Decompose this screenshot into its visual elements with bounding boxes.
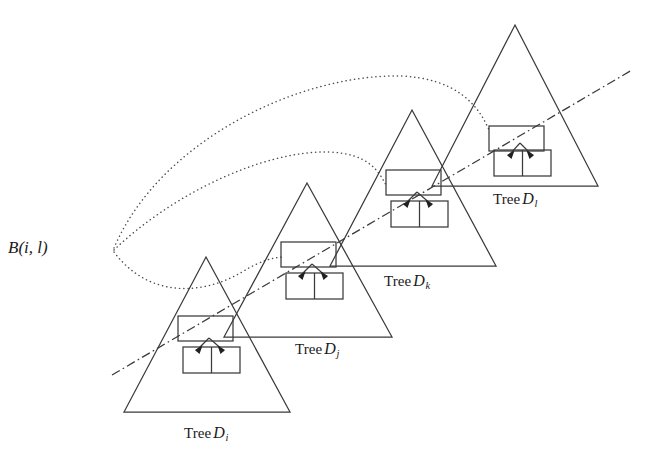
tree-label-l-symbol: D bbox=[520, 190, 534, 207]
tree-label-k: TreeDk bbox=[384, 272, 430, 291]
upper-box-tree-k bbox=[386, 170, 441, 195]
tree-label-j: TreeDj bbox=[295, 340, 340, 359]
node-structure-tree-l bbox=[489, 126, 551, 176]
tree-label-j-word: Tree bbox=[295, 341, 322, 357]
b-node-label-text: B(i, l) bbox=[8, 238, 48, 257]
upper-box-tree-j bbox=[281, 242, 336, 267]
dotted-arc-group bbox=[114, 76, 489, 289]
tree-label-j-symbol: D bbox=[322, 340, 336, 357]
tree-label-i-subscript: i bbox=[225, 432, 229, 443]
b-node-label: B(i, l) bbox=[8, 238, 48, 258]
triangle-tree-i bbox=[124, 257, 290, 412]
tree-label-i-word: Tree bbox=[184, 425, 211, 441]
dotted-arc-to-tree-k bbox=[114, 152, 386, 250]
dash-dot-axis-line bbox=[112, 70, 632, 375]
tree-label-k-word: Tree bbox=[384, 273, 411, 289]
node-structure-tree-j bbox=[281, 242, 343, 299]
tree-label-k-subscript: k bbox=[425, 280, 430, 291]
dotted-arc-to-tree-l bbox=[114, 76, 489, 248]
tree-label-i: TreeDi bbox=[184, 424, 229, 443]
tree-sequence-diagram bbox=[0, 0, 655, 469]
tree-label-i-symbol: D bbox=[211, 424, 225, 441]
tree-label-k-symbol: D bbox=[411, 272, 425, 289]
tree-label-l: TreeDl bbox=[493, 190, 538, 209]
triangle-tree-k bbox=[330, 110, 496, 266]
tree-label-j-subscript: j bbox=[336, 348, 340, 359]
arrowheads-tree-l bbox=[507, 151, 534, 160]
dotted-arc-to-tree-j bbox=[114, 252, 282, 289]
node-structure-tree-k bbox=[386, 170, 448, 227]
triangle-tree-l bbox=[432, 25, 598, 186]
tree-label-l-word: Tree bbox=[493, 191, 520, 207]
tree-label-l-subscript: l bbox=[534, 198, 538, 209]
